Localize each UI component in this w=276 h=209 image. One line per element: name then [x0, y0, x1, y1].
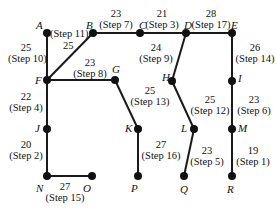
edge-weight: 25 — [8, 42, 44, 53]
node-K — [134, 125, 142, 133]
edge-step: (Step 9) — [138, 53, 174, 64]
edge-step: (Step 6) — [235, 105, 273, 116]
edge-label-HL: 25 (Step 12) — [188, 94, 232, 116]
edge-label-NO: 27 (Step 15) — [45, 181, 85, 203]
node-M — [228, 125, 236, 133]
edge-step: (Step 15) — [45, 192, 85, 203]
edge-label-EI: 26 (Step 14) — [235, 42, 275, 64]
edge-label-BF-weight: 25 — [63, 40, 74, 51]
edge-step: (Step 14) — [235, 53, 275, 64]
node-P — [134, 172, 142, 180]
edge-weight: 23 — [189, 145, 225, 156]
edge-label-MR: 19 (Step 1) — [235, 145, 271, 167]
edge-weight: 23 — [96, 8, 136, 19]
node-N — [43, 172, 51, 180]
edge-step: (Step 1) — [235, 156, 271, 167]
edge-step: (Step 4) — [8, 102, 44, 113]
node-label-M: M — [238, 123, 247, 134]
node-label-Q: Q — [180, 184, 188, 195]
node-I — [228, 77, 236, 85]
edge-label-FG: 23 (Step 8) — [70, 57, 110, 79]
edge-label-AF: 25 (Step 10) — [8, 42, 44, 64]
edge-label-JN: 20 (Step 2) — [8, 139, 44, 161]
edge-label-AB-step: (Step 11) — [50, 28, 88, 39]
edge-label-DE: 28 (Step 17) — [191, 8, 231, 30]
edge-step: (Step 8) — [70, 68, 110, 79]
node-label-I: I — [238, 73, 242, 84]
node-R — [228, 172, 236, 180]
edge-step: (Step 16) — [140, 150, 182, 161]
edge-step: (Step 2) — [8, 150, 44, 161]
edge-label-KP: 27 (Step 16) — [140, 139, 182, 161]
edge-weight: 21 — [142, 8, 182, 19]
edge-weight: 26 — [235, 42, 275, 53]
edge-step: (Step 7) — [96, 19, 136, 30]
node-label-J: J — [35, 123, 40, 134]
edge-weight: 25 — [188, 94, 232, 105]
edge-label-IM: 23 (Step 6) — [235, 94, 273, 116]
node-J — [43, 125, 51, 133]
node-L — [190, 125, 198, 133]
node-label-P: P — [131, 183, 138, 194]
edge-step: (Step 3) — [142, 19, 182, 30]
edge-label-GK: 25 (Step 13) — [128, 85, 172, 107]
node-O — [88, 172, 96, 180]
edge-weight: 25 — [128, 85, 172, 96]
edge-label-BC: 23 (Step 7) — [96, 8, 136, 30]
edge-label-LQ: 23 (Step 5) — [189, 145, 225, 167]
node-label-F: F — [35, 75, 42, 86]
node-label-R: R — [227, 184, 234, 195]
node-label-L: L — [181, 123, 187, 134]
node-label-G: G — [112, 64, 120, 75]
edge-weight: 22 — [8, 91, 44, 102]
node-G — [111, 76, 119, 84]
edge-label-DH: 24 (Step 9) — [138, 42, 174, 64]
edge-step: (Step 17) — [191, 19, 231, 30]
node-label-A: A — [36, 20, 43, 31]
node-label-K: K — [125, 123, 132, 134]
edge-label-CD: 21 (Step 3) — [142, 8, 182, 30]
edge-weight: 23 — [70, 57, 110, 68]
edge-weight: 27 — [140, 139, 182, 150]
node-label-E: E — [231, 20, 238, 31]
node-label-N: N — [36, 183, 43, 194]
edge-label-FJ: 22 (Step 4) — [8, 91, 44, 113]
node-Q — [180, 172, 188, 180]
edge-weight: 19 — [235, 145, 271, 156]
node-label-H: H — [162, 72, 170, 83]
edge-weight: 23 — [235, 94, 273, 105]
edge-step: (Step 5) — [189, 156, 225, 167]
edge-step: (Step 10) — [8, 53, 44, 64]
edge-weight: 24 — [138, 42, 174, 53]
edge-step: (Step 12) — [188, 105, 232, 116]
edge-D-H — [172, 33, 186, 81]
edge-weight: 27 — [45, 181, 85, 192]
edge-weight: 28 — [191, 8, 231, 19]
edge-step: (Step 13) — [128, 96, 172, 107]
edge-weight: 20 — [8, 139, 44, 150]
node-F — [43, 76, 51, 84]
